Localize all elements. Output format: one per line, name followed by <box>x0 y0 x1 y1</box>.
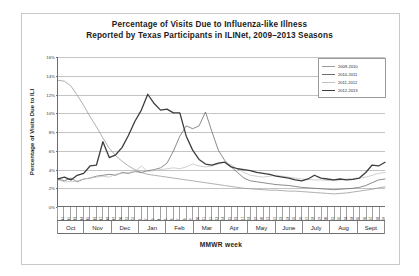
x-axis-week-label: 28 <box>312 217 315 220</box>
x-axis-week-label: 47 <box>100 217 103 220</box>
x-axis-week-label: 15 <box>229 217 232 220</box>
chart-title-block: Percentage of Visits Due to Influenza-li… <box>0 19 419 41</box>
legend-label: 2011-2012 <box>338 80 357 85</box>
x-axis-week-label: 42 <box>68 217 71 220</box>
x-axis-month-label: Apr <box>221 221 248 234</box>
y-axis-tick-label: 8% <box>49 130 55 135</box>
x-axis-month-label: Oct <box>57 221 84 234</box>
y-axis-tick-label: 6% <box>49 148 55 153</box>
x-axis-week-label: 27 <box>306 217 309 220</box>
x-axis-week-label: 4 <box>158 218 161 220</box>
legend-swatch <box>322 66 335 67</box>
x-axis-week-label: 34 <box>351 217 354 220</box>
series-line <box>58 94 385 181</box>
chart-subtitle: Reported by Texas Participants in ILINet… <box>0 30 419 41</box>
legend-item: 2009-2010 <box>322 62 383 70</box>
x-axis-week-label: 46 <box>94 217 97 220</box>
x-axis-month-label: Dec <box>112 221 139 234</box>
legend-item: 2010-2011 <box>322 70 383 78</box>
x-axis-week-label: 26 <box>299 217 302 220</box>
legend-label: 2009-2010 <box>338 64 358 69</box>
legend-label: 2012-2013 <box>338 88 358 93</box>
x-axis-week-label: 3 <box>151 218 154 220</box>
y-axis-title: Percentage of Visits Due to ILI <box>27 57 38 207</box>
legend-swatch <box>322 90 335 91</box>
x-axis-week-label: 35 <box>357 217 360 220</box>
x-axis-week-label: 51 <box>126 217 129 220</box>
legend-item: 2012-2013 <box>322 86 383 94</box>
x-axis-week-label: 20 <box>261 217 264 220</box>
y-axis-tick-label: 14% <box>46 73 55 78</box>
x-axis-month-label: May <box>248 221 275 234</box>
legend-label: 2010-2011 <box>338 72 357 77</box>
series-line <box>58 162 385 182</box>
x-axis-week-label: 25 <box>293 217 296 220</box>
x-axis-week-label: 19 <box>254 217 257 220</box>
y-axis-tick-label: 12% <box>46 92 55 97</box>
legend-swatch <box>322 82 335 83</box>
x-axis-week-label: 30 <box>325 217 328 220</box>
x-axis-week-label: 31 <box>332 217 335 220</box>
x-axis-week-label: 49 <box>113 217 116 220</box>
x-axis-week-label: 12 <box>209 217 212 220</box>
x-axis-week-label: 2 <box>145 218 148 220</box>
x-axis-week-label: 32 <box>338 217 341 220</box>
week-tick-strip: 4041424344454647484950515212345678910111… <box>57 207 385 221</box>
x-axis-month-label: Feb <box>166 221 193 234</box>
x-axis-week-label: 17 <box>242 217 245 220</box>
month-label-strip: OctNovDecJanFebMarAprMayJuneJulyAugSept <box>57 221 385 234</box>
y-axis-tick-label: 0% <box>49 205 55 210</box>
x-axis-week-label: 44 <box>81 217 84 220</box>
x-axis-week-label: 45 <box>87 217 90 220</box>
y-axis-tick-label: 16% <box>46 55 55 60</box>
x-axis-week-label: 50 <box>119 217 122 220</box>
x-axis-week-label: 36 <box>364 217 367 220</box>
x-axis-week-label: 16 <box>235 217 238 220</box>
chart-legend: 2009-20102010-20112011-20122012-2013 <box>318 58 386 98</box>
legend-swatch <box>322 74 335 75</box>
x-axis-month-label: Mar <box>194 221 221 234</box>
x-axis-week-label: 22 <box>274 217 277 220</box>
x-axis-week-label: 11 <box>203 217 206 220</box>
legend-item: 2011-2012 <box>322 78 383 86</box>
x-axis-month-label: Aug <box>330 221 357 234</box>
y-axis-title-text: Percentage of Visits Due to ILI <box>30 89 36 175</box>
x-axis-week-label: 41 <box>61 217 64 220</box>
x-axis-week-label: 33 <box>344 217 347 220</box>
x-axis-week-label: 52 <box>132 217 135 220</box>
x-axis-week-label: 24 <box>287 217 290 220</box>
x-axis-month-label: Jan <box>139 221 166 234</box>
x-axis-week-label: 18 <box>248 217 251 220</box>
x-axis-week-label: 6 <box>171 218 174 220</box>
x-axis-week-label: 13 <box>216 217 219 220</box>
x-axis-week-label: 40 <box>57 217 58 220</box>
x-axis-week-label: 1 <box>139 218 142 220</box>
x-axis-month-label: Sept <box>358 221 385 234</box>
x-axis-week-label: 39 <box>383 217 385 220</box>
x-axis-week-label: 23 <box>280 217 283 220</box>
x-axis-week-label: 7 <box>177 218 180 220</box>
x-axis-week-label: 21 <box>267 217 270 220</box>
x-axis-week-label: 5 <box>164 218 167 220</box>
x-axis-week-label: 10 <box>196 217 199 220</box>
y-axis-tick-label: 10% <box>46 111 55 116</box>
x-axis-title: MMWR week <box>57 241 385 248</box>
x-axis-month-label: June <box>276 221 303 234</box>
x-axis-month-label: Nov <box>84 221 111 234</box>
x-axis-week-label: 14 <box>222 217 225 220</box>
x-axis-week-label: 9 <box>190 218 193 220</box>
chart-title: Percentage of Visits Due to Influenza-li… <box>0 19 419 30</box>
x-axis-week-label: 37 <box>370 217 373 220</box>
x-axis-week-label: 48 <box>106 217 109 220</box>
x-axis-month-label: July <box>303 221 330 234</box>
y-axis-tick-label: 4% <box>49 167 55 172</box>
chart-page: Percentage of Visits Due to Influenza-li… <box>0 0 419 276</box>
x-axis-week-label: 8 <box>184 218 187 220</box>
x-axis-week-label: 38 <box>377 217 380 220</box>
x-axis-week-label: 29 <box>319 217 322 220</box>
y-axis-tick-label: 2% <box>49 186 55 191</box>
